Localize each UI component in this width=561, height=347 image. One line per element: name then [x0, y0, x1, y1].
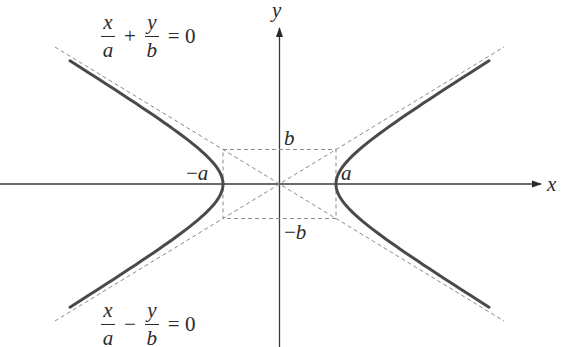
- operator: −: [124, 312, 136, 337]
- denominator: a: [102, 40, 115, 61]
- label-pos-a: a: [341, 163, 352, 184]
- equation-lower-asymptote: x a − y b = 0: [98, 300, 201, 347]
- equals-zero: = 0: [168, 312, 196, 337]
- fraction-bar: [145, 36, 159, 37]
- fraction-bar: [145, 324, 159, 325]
- fraction-bar: [101, 324, 115, 325]
- var-a: a: [198, 161, 209, 185]
- numerator: x: [102, 12, 113, 33]
- minus-sign: −: [284, 220, 296, 244]
- operator: +: [124, 24, 136, 49]
- fraction-y-over-b: y b: [145, 300, 159, 347]
- numerator: y: [146, 300, 157, 321]
- numerator: x: [102, 300, 113, 321]
- label-pos-b: b: [284, 128, 295, 149]
- denominator: b: [146, 328, 159, 347]
- hyperbola-diagram: y x: [0, 0, 561, 347]
- numerator: y: [146, 12, 157, 33]
- equation-upper-asymptote: x a + y b = 0: [98, 12, 201, 61]
- var-b: b: [296, 220, 307, 244]
- minus-sign: −: [186, 161, 198, 185]
- x-axis-label: x: [546, 172, 557, 196]
- y-axis-label: y: [270, 0, 282, 22]
- fraction-y-over-b: y b: [145, 12, 159, 61]
- fraction-x-over-a: x a: [101, 300, 115, 347]
- fraction-bar: [101, 36, 115, 37]
- fraction-x-over-a: x a: [101, 12, 115, 61]
- denominator: a: [102, 328, 115, 347]
- label-neg-a: −a: [186, 163, 208, 184]
- equals-zero: = 0: [168, 24, 196, 49]
- denominator: b: [146, 40, 159, 61]
- label-neg-b: −b: [284, 222, 306, 243]
